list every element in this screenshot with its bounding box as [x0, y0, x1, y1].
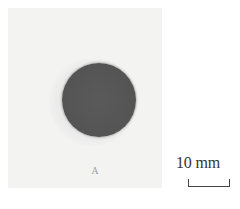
scale-bar-label: 10 mm [176, 154, 220, 172]
panel-label: A [88, 166, 102, 176]
circular-disk-specimen [62, 63, 136, 137]
photo-panel: A [8, 8, 162, 188]
scale-bar [188, 179, 230, 187]
